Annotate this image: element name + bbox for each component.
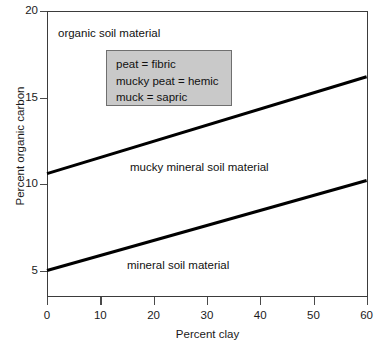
x-tick-label-30: 30 bbox=[187, 310, 227, 322]
x-tick-mark-10 bbox=[100, 297, 101, 305]
x-tick-mark-0 bbox=[47, 297, 48, 305]
annotation-mucky-mineral-soil-material: mucky mineral soil material bbox=[130, 161, 269, 173]
y-tick-mark-5 bbox=[40, 271, 47, 272]
annotation-organic-soil-material: organic soil material bbox=[58, 27, 160, 39]
x-axis-title: Percent clay bbox=[47, 328, 368, 340]
chart-figure: 20 15 10 5 0 10 20 30 40 50 60 Percent o… bbox=[0, 0, 387, 350]
x-tick-label-20: 20 bbox=[134, 310, 174, 322]
y-tick-mark-20 bbox=[40, 11, 47, 12]
y-tick-label-5: 5 bbox=[0, 265, 38, 277]
x-tick-label-10: 10 bbox=[80, 310, 120, 322]
y-tick-mark-15 bbox=[40, 98, 47, 99]
x-tick-mark-20 bbox=[154, 297, 155, 305]
x-tick-mark-30 bbox=[207, 297, 208, 305]
annotation-mineral-soil-material: mineral soil material bbox=[127, 259, 229, 271]
x-tick-mark-40 bbox=[260, 297, 261, 305]
legend-entry-mucky-peat: mucky peat = hemic bbox=[116, 73, 231, 90]
x-tick-label-50: 50 bbox=[294, 310, 334, 322]
legend-box: peat = fibric mucky peat = hemic muck = … bbox=[106, 50, 232, 106]
y-axis-title: Percent organic carbon bbox=[14, 46, 26, 246]
legend-entry-muck: muck = sapric bbox=[116, 89, 231, 106]
plot-frame-right bbox=[367, 11, 368, 297]
y-tick-mark-10 bbox=[40, 184, 47, 185]
x-tick-label-40: 40 bbox=[240, 310, 280, 322]
plot-frame-top bbox=[47, 11, 368, 12]
x-tick-mark-60 bbox=[367, 297, 368, 305]
x-tick-label-60: 60 bbox=[347, 310, 387, 322]
y-tick-label-20: 20 bbox=[0, 5, 38, 17]
x-tick-mark-50 bbox=[314, 297, 315, 305]
legend-entry-peat: peat = fibric bbox=[116, 56, 231, 73]
x-tick-label-0: 0 bbox=[27, 310, 67, 322]
